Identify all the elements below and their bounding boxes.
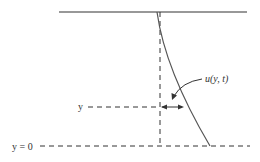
velocity-double-arrow bbox=[161, 105, 184, 110]
velocity-profile-diagram: u(y, t) y y = 0 bbox=[0, 0, 260, 162]
wall-label: y = 0 bbox=[12, 141, 33, 152]
velocity-profile-curve bbox=[157, 12, 210, 146]
y-level-label: y bbox=[78, 101, 83, 112]
velocity-label: u(y, t) bbox=[205, 73, 229, 85]
label-pointer-arrow bbox=[172, 79, 203, 100]
